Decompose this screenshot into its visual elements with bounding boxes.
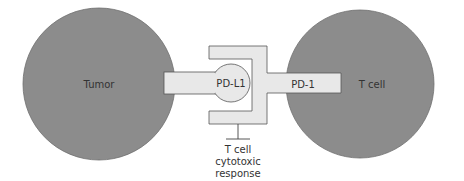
- pd-1-label: PD-1: [291, 79, 315, 90]
- t-cell-label: T cell: [358, 79, 386, 90]
- response-label-line3: response: [215, 168, 260, 179]
- response-label-line2: cytotoxic: [215, 156, 260, 167]
- inhibition-bar: [226, 124, 250, 139]
- pd-l1-label: PD-L1: [216, 78, 245, 89]
- response-label-line1: T cell: [224, 144, 252, 155]
- tumor-label: Tumor: [83, 79, 116, 90]
- pd1-pdl1-diagram: Tumor T cell PD-L1 PD-1 T cell cytotoxic…: [0, 0, 464, 181]
